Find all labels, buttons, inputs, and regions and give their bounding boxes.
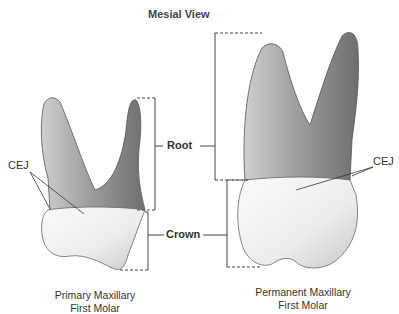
caption-permanent: Permanent Maxillary First Molar (243, 286, 363, 312)
caption-primary-line2: First Molar (40, 302, 150, 314)
caption-permanent-line1: Permanent Maxillary (243, 286, 363, 299)
cej-label-primary: CEJ (8, 159, 29, 171)
crown-label: Crown (166, 228, 200, 240)
diagram-canvas (0, 0, 399, 314)
cej-label-permanent: CEJ (373, 155, 394, 167)
root-label: Root (167, 139, 192, 151)
caption-permanent-line2: First Molar (243, 299, 363, 312)
permanent-root (244, 32, 359, 180)
permanent-crown (238, 177, 358, 268)
primary-crown (42, 207, 145, 269)
diagram-title: Mesial View (148, 8, 210, 20)
permanent-molar-illustration (238, 32, 359, 268)
primary-molar-illustration (41, 98, 145, 270)
caption-primary: Primary Maxillary First Molar (40, 289, 150, 314)
caption-primary-line1: Primary Maxillary (40, 289, 150, 302)
